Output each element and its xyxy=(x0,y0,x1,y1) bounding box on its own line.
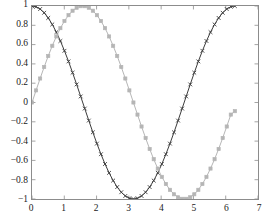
plot-axes xyxy=(31,5,259,200)
x-tick-label: 7 xyxy=(257,204,262,214)
x-tick-label: 2 xyxy=(94,204,99,214)
series-sine xyxy=(32,6,236,199)
y-tick-label: 0 xyxy=(23,98,28,108)
plot-svg xyxy=(32,6,258,199)
y-tick-label: 0.6 xyxy=(16,39,28,49)
y-tick-label: 1 xyxy=(23,0,28,10)
y-tick-label: −1 xyxy=(18,195,28,205)
x-tick-label: 3 xyxy=(126,204,131,214)
tick-marks xyxy=(32,6,258,199)
y-tick-label: −0.2 xyxy=(11,117,28,127)
y-tick-label: 0.4 xyxy=(16,59,28,69)
figure-canvas: −1−0.8−0.6−0.4−0.200.20.40.60.81 0123456… xyxy=(0,0,273,224)
x-tick-label: 1 xyxy=(61,204,66,214)
y-tick-label: −0.6 xyxy=(11,156,28,166)
x-tick-label: 4 xyxy=(159,204,164,214)
y-tick-label: 0.2 xyxy=(16,78,28,88)
x-tick-label: 5 xyxy=(191,204,196,214)
y-tick-label: −0.8 xyxy=(11,176,28,186)
markers-sine xyxy=(32,6,236,199)
x-tick-label: 6 xyxy=(224,204,229,214)
y-tick-label: 0.8 xyxy=(16,20,28,30)
y-tick-label: −0.4 xyxy=(11,137,28,147)
x-tick-label: 0 xyxy=(29,204,34,214)
